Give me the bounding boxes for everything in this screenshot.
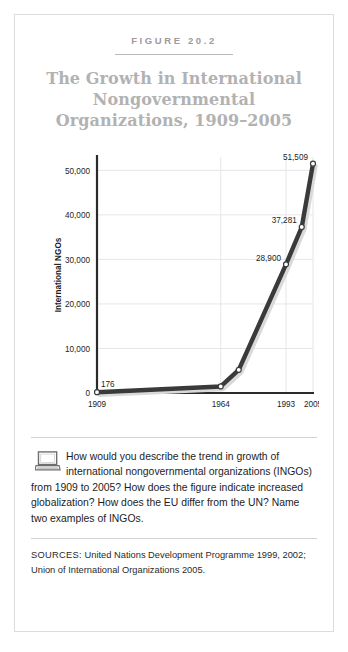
- y-axis-tick-label: 30,000: [65, 256, 90, 265]
- figure-header-divider: [115, 54, 233, 55]
- x-axis-tick-labels: 1909196419932005: [88, 400, 319, 409]
- data-series-line: [97, 164, 316, 395]
- figure-title: The Growth in International Nongovernmen…: [31, 68, 317, 131]
- y-axis-tick-labels: 010,00020,00030,00040,00050,000: [65, 167, 90, 399]
- x-axis-tick-label: 1993: [277, 400, 296, 409]
- figure-title-line-3: Organizations, 1909–2005: [31, 110, 317, 131]
- data-point-marker: [299, 224, 304, 229]
- figure-title-line-2: Nongovernmental: [31, 89, 317, 110]
- question-top-divider: [31, 437, 317, 438]
- sources-label: SOURCES:: [31, 550, 82, 560]
- x-axis-tick-label: 1909: [88, 400, 107, 409]
- question-block: How would you describe the trend in grow…: [31, 449, 317, 526]
- y-axis-tick-label: 50,000: [65, 167, 90, 176]
- line-chart: 010,00020,00030,00040,00050,000 19091964…: [31, 143, 319, 433]
- data-point-label: 51,509: [283, 153, 308, 162]
- figure-title-line-1: The Growth in International: [31, 68, 317, 89]
- sources-block: SOURCES: United Nations Development Prog…: [31, 548, 317, 577]
- figure-number-label: FIGURE 20.2: [31, 35, 317, 46]
- data-point-label: 176: [101, 380, 115, 389]
- x-axis-tick-label: 2005: [304, 400, 319, 409]
- figure-frame: FIGURE 20.2 The Growth in International …: [14, 14, 334, 632]
- sources-divider: [31, 538, 317, 539]
- y-axis-title: International NGOs: [54, 237, 63, 312]
- data-point-label: 28,900: [256, 254, 281, 263]
- data-point-labels: 17628,90037,28151,509: [101, 153, 308, 389]
- y-axis-tick-label: 40,000: [65, 211, 90, 220]
- question-text: How would you describe the trend in grow…: [31, 449, 317, 526]
- laptop-icon: [35, 450, 61, 472]
- y-axis-tick-label: 10,000: [65, 345, 90, 354]
- data-point-marker: [311, 161, 316, 166]
- data-point-label: 37,281: [272, 216, 297, 225]
- x-axis-tick-label: 1964: [212, 400, 231, 409]
- data-point-marker: [218, 384, 223, 389]
- chart-container: 010,00020,00030,00040,00050,000 19091964…: [31, 143, 317, 433]
- data-point-marker: [95, 390, 100, 395]
- data-point-marker: [284, 262, 289, 267]
- data-point-marker: [236, 367, 241, 372]
- y-axis-tick-label: 0: [85, 389, 90, 398]
- y-axis-tick-label: 20,000: [65, 300, 90, 309]
